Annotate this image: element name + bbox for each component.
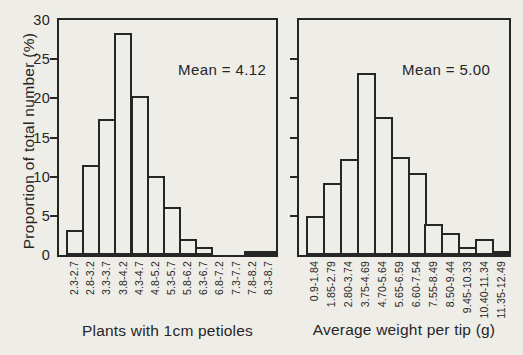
y-tick-mark [50,58,57,60]
x-tick-label: 6.3-6.7 [196,261,210,311]
x-tick-label: 2.8-3.2 [83,261,97,311]
y-tick-mark [290,176,297,178]
x-tick-label: 6.8-7.2 [212,261,226,311]
x-tick-label: 5.8-6.2 [180,261,194,311]
x-tick-label: 6.60-7.54 [409,261,423,319]
x-tick-label: 7.55-8.49 [426,261,440,319]
x-tick-label: 10.40-11.34 [477,261,491,319]
y-tick-mark [50,137,57,139]
y-tick-label: 20 [16,89,50,107]
y-tick-mark [290,137,297,139]
histogram-bar [195,247,213,255]
left-x-axis-title: Plants with 1cm petioles [57,322,278,340]
histogram-figure: Proportion of total number (%) Mean = 4.… [0,0,523,355]
x-tick-label: 7.8-8.2 [245,261,259,311]
x-tick-label: 8.50-9.44 [443,261,457,319]
y-tick-mark [50,97,57,99]
x-tick-label: 3.8-4.2 [116,261,130,311]
left-mean-annotation: Mean = 4.12 [178,61,266,78]
x-tick-label: 5.65-6.59 [392,261,406,319]
y-tick-mark [290,97,297,99]
x-tick-label: 3.3-3.7 [99,261,113,311]
histogram-bar [492,251,511,255]
x-tick-label: 4.8-5.2 [148,261,162,311]
histogram-bar [114,33,132,255]
right-histogram-panel [297,18,511,257]
y-tick-mark [50,215,57,217]
histogram-bar [260,251,278,255]
y-tick-label: 15 [16,129,50,147]
y-tick-label: 5 [16,207,50,225]
x-tick-label: 0.9-1.84 [307,261,321,319]
right-mean-annotation: Mean = 5.00 [402,61,490,78]
x-tick-label: 7.3-7.7 [229,261,243,311]
y-tick-label: 25 [16,50,50,68]
x-tick-label: 4.70-5.64 [375,261,389,319]
y-tick-label: 10 [16,168,50,186]
left-histogram-panel [57,18,278,257]
x-tick-label: 1.85-2.79 [324,261,338,319]
x-tick-label: 5.3-5.7 [164,261,178,311]
right-x-axis-title: Average weight per tip (g) [293,321,515,339]
y-tick-mark [290,215,297,217]
x-tick-label: 9.45-10.33 [460,261,474,319]
x-tick-label: 2.80-3.74 [341,261,355,319]
y-tick-label: 0 [16,246,50,264]
y-tick-label: 30 [16,11,50,29]
x-tick-label: 3.75-4.69 [358,261,372,319]
x-tick-label: 4.3-4.7 [132,261,146,311]
x-tick-label: 11.35-12.49 [494,261,508,319]
y-tick-mark [290,58,297,60]
x-tick-label: 8.3-8.7 [261,261,275,311]
x-tick-label: 2.3-2.7 [67,261,81,311]
y-tick-mark [50,176,57,178]
